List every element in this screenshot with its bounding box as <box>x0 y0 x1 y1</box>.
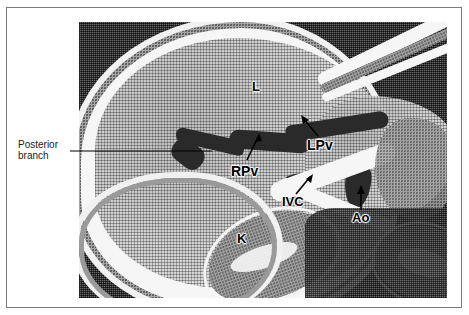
label-left-portal-vein: LPv <box>307 138 333 154</box>
label-right-portal-vein: RPv <box>231 164 258 180</box>
label-kidney: K <box>237 232 246 247</box>
label-liver: L <box>252 80 260 95</box>
posterior-branch-label: Posteriorbranch <box>18 139 58 161</box>
body-wall-lower-muscle-arc <box>79 178 277 298</box>
posterior-branch-label-line2: branch <box>18 150 49 161</box>
figure-page: Posteriorbranch L LPv RPv IVC Ao K <box>0 0 469 315</box>
posterior-dark-region <box>305 208 447 298</box>
posterior-branch-label-line1: Posterior <box>18 139 58 150</box>
ct-scan-image <box>79 22 447 298</box>
label-inferior-vena-cava: IVC <box>282 195 304 210</box>
label-aorta: Ao <box>352 211 369 226</box>
